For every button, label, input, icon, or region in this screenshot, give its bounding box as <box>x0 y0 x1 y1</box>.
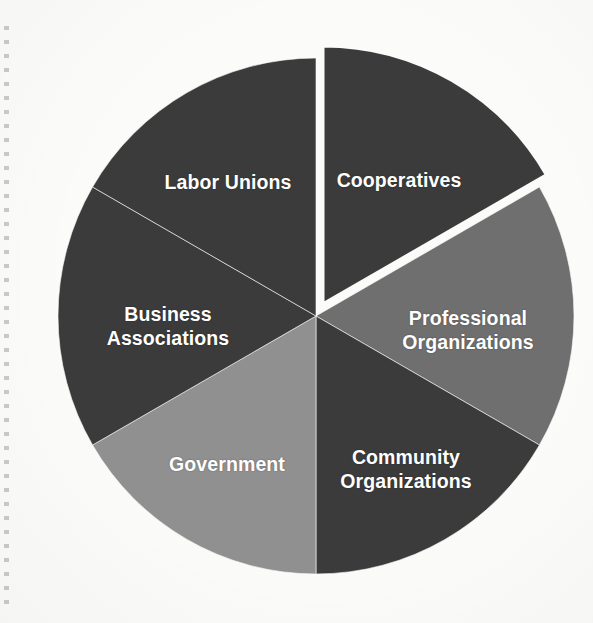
pie-chart: CooperativesProfessional OrganizationsCo… <box>0 0 593 623</box>
pie-chart-page: CooperativesProfessional OrganizationsCo… <box>0 0 593 623</box>
pie-chart-svg <box>0 0 593 623</box>
